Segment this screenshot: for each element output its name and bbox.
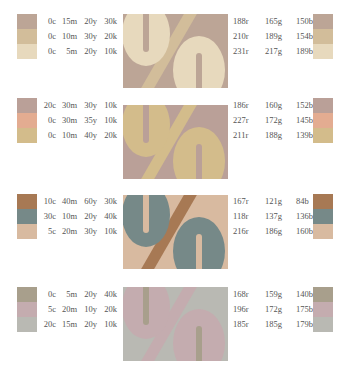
rgb-row: 118r 137g 136b (233, 209, 311, 224)
yellow-value: 40y (80, 128, 97, 143)
percent-sign-icon (123, 105, 228, 179)
green-value: 185g (265, 317, 285, 332)
cyan-value: 0c (40, 287, 56, 302)
swatch-segment-1 (313, 287, 333, 302)
black-value: 10k (100, 98, 117, 113)
black-value: 40k (100, 287, 117, 302)
red-value: 168r (233, 287, 250, 302)
magenta-value: 5m (58, 287, 77, 302)
yellow-value: 20y (80, 287, 97, 302)
percent-sign-icon (123, 287, 228, 361)
cyan-value: 0c (40, 128, 56, 143)
magenta-value: 30m (58, 113, 77, 128)
swatch-segment-3 (17, 317, 37, 332)
magenta-value: 30m (58, 98, 77, 113)
cmyk-row: 20c 15m 20y 10k (40, 317, 120, 332)
magenta-value: 20m (58, 302, 77, 317)
red-value: 118r (233, 209, 250, 224)
swatch-segment-1 (313, 98, 333, 113)
swatch-segment-3 (17, 224, 37, 239)
rgb-row: 196r 172g 175b (233, 302, 311, 317)
red-value: 186r (233, 98, 250, 113)
black-value: 20k (100, 128, 117, 143)
magenta-value: 10m (58, 128, 77, 143)
cyan-value: 5c (40, 302, 56, 317)
swatch-segment-2 (17, 302, 37, 317)
cyan-value: 5c (40, 224, 56, 239)
cmyk-row: 5c 20m 10y 20k (40, 302, 120, 317)
cmyk-swatch-strip (17, 194, 37, 239)
swatch-segment-3 (313, 224, 333, 239)
red-value: 167r (233, 194, 250, 209)
swatch-segment-3 (313, 317, 333, 332)
rgb-row: 167r 121g 84b (233, 194, 311, 209)
cmyk-row: 0c 30m 35y 10k (40, 113, 120, 128)
rgb-row: 211r 188g 139b (233, 128, 311, 143)
magenta-value: 20m (58, 224, 77, 239)
yellow-value: 20y (80, 317, 97, 332)
rgb-swatch-strip (313, 98, 333, 143)
black-value: 30k (100, 194, 117, 209)
swatch-segment-3 (313, 128, 333, 143)
rgb-row: 185r 185g 179b (233, 317, 311, 332)
rgb-row: 216r 186g 160b (233, 224, 311, 239)
green-value: 121g (265, 194, 285, 209)
swatch-segment-1 (17, 98, 37, 113)
green-value: 160g (265, 98, 285, 113)
magenta-value: 40m (58, 194, 77, 209)
red-value: 216r (233, 224, 250, 239)
rgb-row: 168r 159g 140b (233, 287, 311, 302)
cmyk-swatch-strip (17, 98, 37, 143)
red-value: 227r (233, 113, 250, 128)
percent-sample-image (123, 105, 228, 179)
cmyk-row: 10c 40m 60y 30k (40, 194, 120, 209)
swatch-segment-2 (313, 209, 333, 224)
cmyk-row: 0c 10m 40y 20k (40, 128, 120, 143)
yellow-value: 30y (80, 98, 97, 113)
percent-sample-image (123, 287, 228, 361)
rgb-row: 186r 160g 152b (233, 98, 311, 113)
green-value: 172g (265, 113, 285, 128)
magenta-value: 10m (58, 209, 77, 224)
swatch-segment-2 (17, 113, 37, 128)
rgb-swatch-strip (313, 194, 333, 239)
red-value: 185r (233, 317, 250, 332)
cmyk-row: 0c 5m 20y 40k (40, 287, 120, 302)
cmyk-swatch-strip (17, 287, 37, 332)
cyan-value: 10c (40, 194, 56, 209)
percent-sample-image (123, 195, 228, 269)
cyan-value: 30c (40, 209, 56, 224)
swatch-segment-1 (17, 287, 37, 302)
swatch-segment-2 (313, 302, 333, 317)
red-value: 211r (233, 128, 250, 143)
black-value: 20k (100, 302, 117, 317)
cmyk-row: 5c 20m 30y 10k (40, 224, 120, 239)
yellow-value: 20y (80, 209, 97, 224)
green-value: 159g (265, 287, 285, 302)
green-value: 172g (265, 302, 285, 317)
yellow-value: 30y (80, 224, 97, 239)
rgb-row: 227r 172g 145b (233, 113, 311, 128)
green-value: 137g (265, 209, 285, 224)
swatch-segment-2 (313, 113, 333, 128)
cmyk-row: 30c 10m 20y 40k (40, 209, 120, 224)
swatch-segment-2 (17, 209, 37, 224)
green-value: 186g (265, 224, 285, 239)
swatch-segment-3 (17, 128, 37, 143)
yellow-value: 10y (80, 302, 97, 317)
swatch-segment-1 (17, 194, 37, 209)
cyan-value: 20c (40, 317, 56, 332)
yellow-value: 35y (80, 113, 97, 128)
rgb-swatch-strip (313, 287, 333, 332)
black-value: 40k (100, 209, 117, 224)
cyan-value: 20c (40, 98, 56, 113)
black-value: 10k (100, 224, 117, 239)
cmyk-row: 20c 30m 30y 10k (40, 98, 120, 113)
black-value: 10k (100, 113, 117, 128)
green-value: 188g (265, 128, 285, 143)
yellow-value: 60y (80, 194, 97, 209)
red-value: 196r (233, 302, 250, 317)
swatch-segment-1 (313, 194, 333, 209)
percent-sign-icon (123, 195, 228, 269)
black-value: 10k (100, 317, 117, 332)
